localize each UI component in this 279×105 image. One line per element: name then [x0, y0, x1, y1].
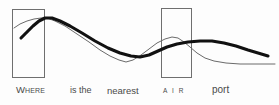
word-is-the: is the — [70, 86, 92, 95]
word-where: WHERE — [16, 85, 45, 95]
word-air: A I R — [163, 88, 185, 95]
word-port: port — [212, 85, 229, 95]
word-nearest: nearest — [107, 86, 139, 96]
transcription-layer: WHERE is the nearest A I R port — [0, 0, 279, 105]
intonation-contour-figure: WHERE is the nearest A I R port — [0, 0, 279, 105]
word-where-smallcaps: HERE — [25, 87, 45, 94]
word-where-capital: W — [16, 84, 25, 95]
